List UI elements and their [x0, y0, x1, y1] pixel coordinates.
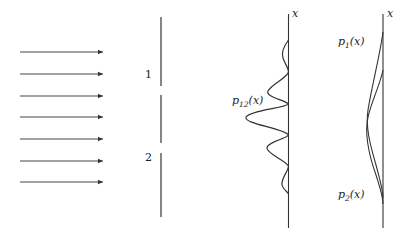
double-slit-diagram: 1 2 x p12(x) x p1(x) p2(x) — [0, 0, 408, 234]
slit-2-label: 2 — [145, 151, 152, 164]
right-axis-label: x — [387, 7, 394, 20]
p1-label: p1(x) — [338, 35, 365, 50]
slit-1-label: 1 — [145, 68, 152, 81]
incident-wave-arrows — [20, 52, 103, 182]
p12-label: p12(x) — [232, 94, 263, 109]
middle-axis-label: x — [292, 7, 299, 20]
p12-curve — [246, 40, 289, 194]
p2-label: p2(x) — [338, 188, 365, 203]
